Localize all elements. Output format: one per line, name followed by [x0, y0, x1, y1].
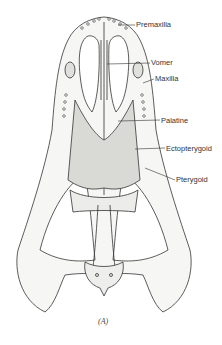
- label-vomer: Vomer: [151, 59, 173, 67]
- label-maxilla: Maxilla: [155, 75, 178, 83]
- label-palatine: Palatine: [161, 117, 188, 125]
- skull-illustration: [0, 0, 222, 345]
- label-pterygoid: Pterygoid: [176, 176, 208, 184]
- label-ectopterygoid: Ectopterygoid: [166, 145, 212, 153]
- label-premaxilla: Premaxilla: [136, 21, 171, 29]
- figure-caption: (A): [98, 317, 108, 326]
